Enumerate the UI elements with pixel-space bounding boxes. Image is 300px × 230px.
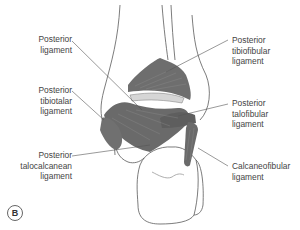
leader-posterior-tibiofibular — [166, 40, 228, 72]
panel-label-badge: B — [7, 205, 23, 221]
label-line: Posterior — [38, 85, 72, 96]
label-line: ligament — [232, 119, 268, 130]
label-calcaneofibular-ligament: Calcaneofibular ligament — [232, 161, 290, 182]
posterior-ligament-band — [130, 93, 184, 103]
label-line: ligament — [20, 171, 72, 182]
label-posterior-talofibular-ligament: Posterior talofibular ligament — [232, 98, 268, 130]
label-posterior-talocalcanean-ligament: Posterior talocalcanean ligament — [20, 150, 72, 182]
label-line: tibiotalar — [38, 96, 72, 107]
label-line: Posterior — [232, 98, 268, 109]
label-posterior-tibiofibular-ligament: Posterior tibiofibular ligament — [232, 35, 270, 67]
label-posterior-tibiotalar-ligament: Posterior tibiotalar ligament — [38, 85, 72, 117]
label-line: ligament — [38, 45, 72, 56]
label-line: ligament — [232, 172, 290, 183]
label-line: Calcaneofibular — [232, 161, 290, 172]
leader-calcaneofibular — [198, 148, 228, 166]
label-posterior-ligament: Posterior ligament — [38, 34, 72, 55]
label-line: ligament — [232, 56, 270, 67]
leader-posterior-ligament — [72, 41, 142, 110]
label-line: ligament — [38, 106, 72, 117]
label-line: Posterior — [38, 34, 72, 45]
tibia-outline-inner2 — [171, 5, 175, 60]
label-line: talofibular — [232, 109, 268, 120]
leader-posterior-tibiotalar — [72, 91, 104, 120]
tibia-outline-inner — [162, 5, 168, 60]
label-line: talocalcanean — [20, 161, 72, 172]
label-line: Posterior — [232, 35, 270, 46]
fibula-outline — [192, 15, 209, 120]
label-line: tibiofibular — [232, 46, 270, 57]
label-line: Posterior — [20, 150, 72, 161]
